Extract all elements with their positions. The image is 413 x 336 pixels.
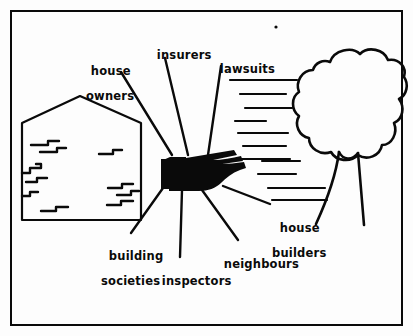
label-inspectors-line1: inspectors: [162, 274, 232, 288]
label-lawsuits: lawsuits: [203, 50, 275, 88]
motion-lines: [230, 80, 327, 200]
house-cracks: [22, 141, 139, 211]
ink-speck: [274, 25, 277, 28]
label-building-societies-line2: societies: [92, 275, 163, 288]
hand-cuff: [161, 159, 174, 189]
label-house-builders-line1: house: [280, 221, 320, 235]
tree-canopy: [293, 49, 407, 160]
leader-house-builders: [223, 186, 270, 204]
leader-neighbours: [202, 190, 238, 240]
label-house-owners-line2: owners: [74, 90, 134, 103]
label-building-societies-line1: building: [109, 249, 164, 263]
label-house-owners: house owners: [74, 52, 134, 127]
leader-building-societies: [131, 188, 163, 233]
label-neighbours-line1: neighbours: [224, 257, 299, 271]
leader-inspectors: [180, 190, 182, 257]
label-lawsuits-line1: lawsuits: [220, 62, 275, 76]
tree-root-notch: [339, 152, 358, 159]
tree-trunk-right: [358, 153, 364, 225]
figure-canvas: house owners insurers lawsuits house bui…: [0, 0, 413, 336]
label-house-owners-line1: house: [91, 64, 131, 78]
label-insurers: insurers: [140, 36, 212, 74]
label-building-societies: building societies: [92, 237, 163, 312]
